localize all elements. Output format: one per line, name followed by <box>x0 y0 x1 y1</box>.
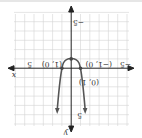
point-neg1-0 <box>79 66 83 70</box>
curve-arrow-icon <box>55 108 60 114</box>
point-label-neg1-0: (−1, 0) <box>85 60 112 69</box>
axes <box>8 6 134 132</box>
curve-arrow-icon <box>83 108 88 114</box>
point-label-1-0: (1, 0) <box>42 60 62 69</box>
y-axis-label: y <box>63 129 69 138</box>
x-axis-arrow-icon <box>8 66 14 71</box>
y-neg5-label: −5 <box>73 18 84 27</box>
x-axis-label: x <box>11 71 16 80</box>
y-axis-arrow-icon <box>69 6 74 12</box>
point-label-0-1: (0, 1) <box>79 78 99 87</box>
x-pos5-label: 5 <box>27 60 32 69</box>
y-axis-arrow-icon <box>69 126 74 132</box>
y-pos5-label: 5 <box>77 111 82 120</box>
function-graph: 5 (1, 0) (−1, 0) −5 (0, 1) −5 5 x y <box>0 0 142 138</box>
x-neg5-label: −5 <box>120 60 131 69</box>
point-0-neg1 <box>69 57 73 61</box>
